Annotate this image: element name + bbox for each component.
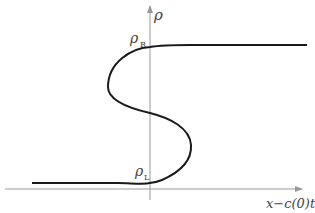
rho-l-label: ρ xyxy=(134,163,144,179)
rho-r-label: ρ xyxy=(129,30,139,46)
y-axis-label: ρ xyxy=(153,6,163,24)
diagram-canvas: ρ ρ R ρ L x−c(0)t xyxy=(0,0,315,213)
s-curve xyxy=(32,45,307,184)
x-axis-label: x−c(0)t xyxy=(266,196,315,211)
rho-r-subscript: R xyxy=(140,40,147,49)
rho-l-subscript: L xyxy=(144,173,150,182)
